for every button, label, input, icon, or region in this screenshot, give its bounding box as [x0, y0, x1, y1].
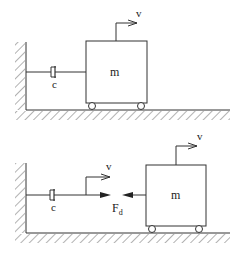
bottom-damper-label: c — [51, 201, 56, 213]
top-damper-label: c — [52, 78, 57, 90]
top-mass: m — [86, 41, 147, 110]
top-velocity-label: v — [136, 7, 142, 19]
top-wall — [15, 42, 26, 110]
bottom-mass-velocity-label: v — [197, 130, 203, 142]
bottom-system: c v Fd m v — [15, 130, 230, 243]
bottom-wheel-left — [149, 226, 156, 233]
bottom-mass-label: m — [171, 188, 181, 202]
bottom-ground — [15, 233, 230, 243]
top-damper: c — [26, 66, 86, 90]
damper-mass-diagram: c m v — [0, 0, 243, 260]
bottom-damper-velocity-arrow: v — [86, 160, 112, 195]
force-arrow-right-icon — [100, 192, 111, 198]
top-system: c m v — [15, 7, 230, 120]
top-velocity-arrow: v — [116, 7, 142, 41]
bottom-mass-velocity-arrow: v — [176, 130, 203, 165]
bottom-damper-velocity-label: v — [106, 160, 112, 172]
bottom-wheel-right — [196, 226, 203, 233]
top-mass-label: m — [110, 65, 120, 79]
force-arrow-left-icon — [122, 192, 133, 198]
bottom-mass: m — [146, 165, 206, 233]
damping-force-label: Fd — [112, 201, 123, 217]
bottom-wall — [15, 163, 26, 233]
damping-force-arrows: Fd — [100, 192, 146, 217]
top-ground — [15, 110, 230, 120]
bottom-damper: c — [26, 189, 100, 213]
top-wheel-right — [138, 103, 145, 110]
top-wheel-left — [89, 103, 96, 110]
